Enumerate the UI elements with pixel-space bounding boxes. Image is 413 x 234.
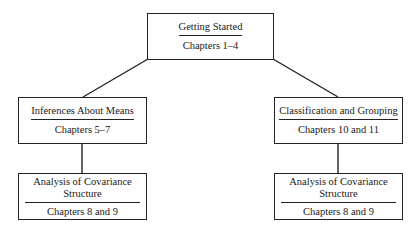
node-title: Classification and Grouping <box>279 105 397 120</box>
node-inferences-about-means: Inferences About Means Chapters 5–7 <box>18 97 147 144</box>
node-title-line: Structure <box>289 188 388 200</box>
node-analysis-of-covariance-left: Analysis of Covariance Structure Chapter… <box>18 173 147 220</box>
node-getting-started: Getting Started Chapters 1–4 <box>147 13 274 60</box>
node-title-line: Analysis of Covariance <box>289 176 388 188</box>
node-title-line: Structure <box>33 188 132 200</box>
node-classification-and-grouping: Classification and Grouping Chapters 10 … <box>274 97 403 144</box>
node-title: Analysis of Covariance Structure <box>25 176 140 203</box>
edge-top-to-mid-left <box>83 59 148 97</box>
node-subtitle: Chapters 1–4 <box>183 40 239 52</box>
node-title: Analysis of Covariance Structure <box>281 176 396 203</box>
node-title-line: Analysis of Covariance <box>33 176 132 188</box>
node-subtitle: Chapters 5–7 <box>55 124 111 136</box>
node-subtitle: Chapters 8 and 9 <box>47 206 118 218</box>
node-analysis-of-covariance-right: Analysis of Covariance Structure Chapter… <box>274 173 403 220</box>
node-subtitle: Chapters 8 and 9 <box>303 206 374 218</box>
node-title: Inferences About Means <box>31 105 134 120</box>
node-title: Getting Started <box>179 21 243 36</box>
node-subtitle: Chapters 10 and 11 <box>298 124 379 136</box>
edge-top-to-mid-right <box>273 59 338 97</box>
